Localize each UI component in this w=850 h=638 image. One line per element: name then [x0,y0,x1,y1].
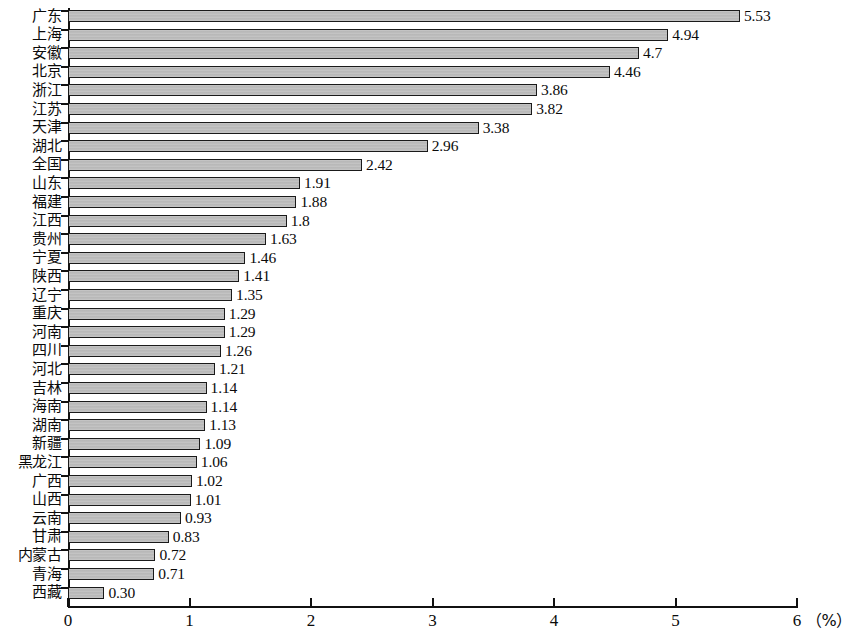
y-axis-tick [61,47,69,49]
y-axis-tick [61,289,69,291]
bar-row: 4.94 [68,27,797,46]
bar-row: 1.02 [68,473,797,492]
x-axis-tick [432,598,434,607]
bar-value-label: 1.29 [229,304,256,323]
x-axis-unit-label: （%） [806,610,850,632]
bar-row: 4.7 [68,45,797,64]
bar [68,363,215,375]
bar-value-label: 1.29 [229,322,256,341]
y-axis-tick [61,159,69,161]
bar-row: 0.71 [68,566,797,585]
bar [68,568,154,580]
y-axis-label-17: 重庆 [0,305,64,322]
bar-value-label: 1.14 [211,397,238,416]
bar [68,419,205,431]
x-axis-tick [67,598,69,607]
y-axis-tick [61,233,69,235]
bar-row: 1.13 [68,417,797,436]
bar-row: 3.82 [68,101,797,120]
x-axis-tick [189,598,191,607]
y-axis-label-19: 四川 [0,342,64,359]
y-axis-label-5: 浙江 [0,82,64,99]
bar-value-label: 3.86 [541,80,568,99]
bar [68,456,197,468]
x-axis-tick [675,598,677,607]
bar-chart: 5.534.944.74.463.863.823.382.962.421.911… [0,0,850,638]
y-axis-label-13: 贵州 [0,231,64,248]
bar-value-label: 0.30 [108,583,135,602]
y-axis-tick [61,140,69,142]
y-axis-tick [61,382,69,384]
y-axis-tick [61,103,69,105]
bar [68,47,639,59]
y-axis-label-29: 甘肃 [0,528,64,545]
y-axis-label-6: 江苏 [0,101,64,118]
bar-row: 1.88 [68,194,797,213]
bar [68,438,200,450]
y-axis-label-24: 新疆 [0,435,64,452]
y-axis-label-31: 青海 [0,566,64,583]
y-axis-tick [61,494,69,496]
bar [68,531,169,543]
x-axis-tick-label: 4 [550,610,559,632]
bar [68,401,207,413]
bar [68,140,428,152]
bar [68,494,191,506]
y-axis-tick [61,401,69,403]
bar [68,382,207,394]
bar-value-label: 1.26 [225,341,252,360]
bar-value-label: 3.38 [483,118,510,137]
bar-value-label: 1.06 [201,452,228,471]
y-axis-label-14: 宁夏 [0,249,64,266]
y-axis-label-27: 山西 [0,491,64,508]
bar-row: 1.91 [68,175,797,194]
y-axis-label-7: 天津 [0,119,64,136]
y-axis-label-18: 河南 [0,324,64,341]
y-axis-label-15: 陕西 [0,268,64,285]
y-axis-label-8: 湖北 [0,138,64,155]
y-axis-tick [61,196,69,198]
bar [68,308,225,320]
y-axis-tick [61,456,69,458]
bar-row: 1.01 [68,492,797,511]
y-axis-tick [61,363,69,365]
x-axis-tick-label: 3 [428,610,437,632]
bar [68,29,668,41]
y-axis-label-16: 辽宁 [0,287,64,304]
x-axis-tick [553,598,555,607]
y-axis-label-22: 海南 [0,398,64,415]
bar-value-label: 4.7 [643,43,662,62]
y-axis-tick [61,419,69,421]
bar [68,587,104,599]
bar-row: 1.46 [68,250,797,269]
bar-value-label: 1.35 [236,285,263,304]
y-axis-label-10: 山东 [0,175,64,192]
bar-row: 4.46 [68,64,797,83]
y-axis-label-25: 黑龙江 [0,454,64,471]
bar-row: 1.14 [68,380,797,399]
y-axis-label-3: 安徽 [0,45,64,62]
y-axis-tick [61,345,69,347]
bar [68,252,245,264]
bar [68,512,181,524]
y-axis-label-20: 河北 [0,361,64,378]
bar-value-label: 2.96 [432,136,459,155]
bar-value-label: 1.13 [209,415,236,434]
bar-value-label: 0.71 [158,564,185,583]
bar-value-label: 1.02 [196,471,223,490]
bar-value-label: 1.14 [211,378,238,397]
y-axis-label-26: 广西 [0,473,64,490]
y-axis-tick [61,568,69,570]
y-axis-label-1: 广东 [0,8,64,25]
bar-value-label: 2.42 [366,155,393,174]
x-axis-tick-label: 1 [185,610,194,632]
plot-area: 5.534.944.74.463.863.823.382.962.421.911… [68,8,797,604]
bar [68,84,537,96]
y-axis-tick [61,122,69,124]
bar [68,122,479,134]
bar-value-label: 1.88 [300,192,327,211]
x-axis-tick-label: 0 [64,610,73,632]
bar-row: 1.14 [68,399,797,418]
y-axis-tick [61,270,69,272]
x-axis-tick [310,598,312,607]
